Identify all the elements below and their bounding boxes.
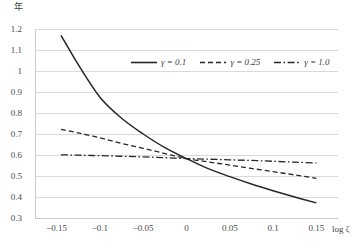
y-tick-label: 0.7	[0, 129, 22, 139]
y-tick-label: 0.6	[0, 150, 22, 160]
y-tick-label: 1.1	[0, 45, 22, 55]
chart-container: 年 log ζ 1.21.110.90.80.70.60.50.40.3 −0.…	[0, 0, 362, 248]
y-tick-label: 1.2	[0, 24, 22, 34]
gridline	[35, 218, 338, 219]
y-tick-label: 0.5	[0, 171, 22, 181]
x-tick-label: 0.1	[251, 223, 295, 233]
y-tick-label: 0.8	[0, 108, 22, 118]
series-line	[61, 129, 316, 178]
legend-label: γ = 0.25	[230, 57, 260, 67]
legend-entry[interactable]: γ = 0.1	[131, 57, 186, 67]
x-tick-label: 0.05	[208, 223, 252, 233]
x-tick-label: −0.15	[35, 223, 79, 233]
legend-line-swatch	[131, 59, 157, 66]
y-tick-label: 0.4	[0, 192, 22, 202]
y-tick-label: 0.3	[0, 213, 22, 223]
x-tick-label: −0.05	[121, 223, 165, 233]
legend-line-swatch	[274, 59, 300, 66]
x-tick-label: 0	[165, 223, 209, 233]
x-tick-label: 0.15	[294, 223, 338, 233]
y-axis-title: 年	[14, 2, 23, 13]
y-tick-label: 0.9	[0, 87, 22, 97]
chart-legend: γ = 0.1γ = 0.25γ = 1.0	[128, 55, 333, 69]
y-tick-label: 1	[0, 66, 22, 76]
legend-label: γ = 1.0	[304, 57, 329, 67]
legend-entry[interactable]: γ = 1.0	[274, 57, 329, 67]
legend-label: γ = 0.1	[161, 57, 186, 67]
legend-line-swatch	[200, 59, 226, 66]
x-tick-label: −0.1	[78, 223, 122, 233]
series-line	[61, 155, 316, 163]
legend-entry[interactable]: γ = 0.25	[200, 57, 260, 67]
